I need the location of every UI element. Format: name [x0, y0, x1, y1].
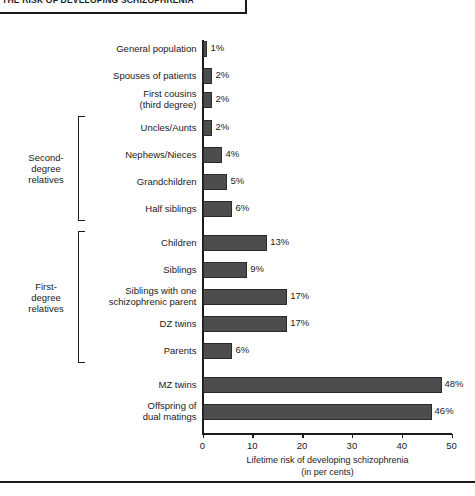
category-label: Grandchildren: [137, 176, 197, 187]
bar: [203, 68, 213, 84]
bar: [203, 92, 213, 108]
category-label-line: Spouses of patients: [113, 70, 196, 81]
category-label: DZ twins: [160, 318, 197, 329]
category-label: Spouses of patients: [113, 70, 196, 81]
category-label-line: Grandchildren: [137, 176, 197, 187]
category-label: Parents: [164, 345, 197, 356]
bar: [203, 174, 228, 190]
x-axis-title: Lifetime risk of developing schizophreni…: [180, 455, 475, 478]
bar-value-label: 6%: [235, 200, 249, 216]
group-bracket: [78, 116, 85, 221]
category-label-line: Offspring of: [143, 400, 197, 411]
x-tick-label: 40: [387, 440, 417, 451]
title-box: THE RISK OF DEVELOPING SCHIZOPHRENIA: [0, 0, 247, 14]
category-label-line: General population: [116, 43, 196, 54]
chart-page: THE RISK OF DEVELOPING SCHIZOPHRENIA 1%2…: [0, 0, 475, 496]
bar: [203, 41, 208, 57]
category-label-line: schizophrenic parent: [109, 296, 197, 307]
bar-value-label: 9%: [250, 261, 264, 277]
bar-value-label: 1%: [210, 40, 224, 56]
bar-value-label: 6%: [235, 342, 249, 358]
bar-value-label: 4%: [225, 146, 239, 162]
category-label-line: dual matings: [143, 411, 197, 422]
category-label: Siblings: [163, 264, 196, 275]
category-label: Offspring ofdual matings: [143, 400, 197, 422]
bar: [203, 404, 432, 420]
bar: [203, 377, 442, 393]
x-tick-label: 20: [287, 440, 317, 451]
category-label-line: First cousins: [139, 88, 196, 99]
bar: [203, 235, 268, 251]
group-label-line: First-: [18, 281, 74, 292]
category-label-line: Uncles/Aunts: [141, 122, 197, 133]
x-axis-line: [202, 433, 452, 435]
x-tick-label: 10: [237, 440, 267, 451]
bar-value-label: 2%: [215, 119, 229, 135]
bar: [203, 289, 288, 305]
category-label-line: MZ twins: [159, 379, 197, 390]
category-label-line: DZ twins: [160, 318, 197, 329]
group-label-line: relatives: [18, 303, 74, 314]
bar-value-label: 5%: [230, 173, 244, 189]
x-tick-label: 30: [337, 440, 367, 451]
group-label: First-degreerelatives: [18, 281, 74, 314]
x-tick: [252, 434, 254, 438]
category-label: Half siblings: [145, 203, 196, 214]
group-label: Second-degreerelatives: [18, 152, 74, 185]
category-label-line: Siblings with one: [109, 285, 197, 296]
bar-value-label: 2%: [215, 91, 229, 107]
category-label: Siblings with oneschizophrenic parent: [109, 285, 197, 307]
group-label-line: degree: [18, 163, 74, 174]
bar-value-label: 46%: [435, 403, 454, 419]
group-label-line: degree: [18, 292, 74, 303]
category-label: Children: [161, 237, 196, 248]
category-label-line: Nephews/Nieces: [125, 149, 196, 160]
category-label: General population: [116, 43, 196, 54]
group-bracket: [78, 231, 85, 363]
x-axis-title-line1: Lifetime risk of developing schizophreni…: [180, 455, 475, 467]
group-label-line: Second-: [18, 152, 74, 163]
x-tick: [452, 434, 454, 438]
page-title: THE RISK OF DEVELOPING SCHIZOPHRENIA: [2, 0, 194, 5]
category-label-line: (third degree): [139, 99, 196, 110]
bar-value-label: 48%: [445, 376, 464, 392]
category-label: MZ twins: [159, 379, 197, 390]
x-tick: [352, 434, 354, 438]
bar: [203, 201, 233, 217]
category-label-line: Half siblings: [145, 203, 196, 214]
category-label-line: Siblings: [163, 264, 196, 275]
bar: [203, 343, 233, 359]
x-tick: [302, 434, 304, 438]
category-label: Nephews/Nieces: [125, 149, 196, 160]
bar-value-label: 17%: [290, 288, 309, 304]
bar: [203, 147, 223, 163]
bar: [203, 316, 288, 332]
bar-value-label: 2%: [215, 67, 229, 83]
x-tick-label: 0: [188, 440, 218, 451]
category-label: Uncles/Aunts: [141, 122, 197, 133]
x-tick-label: 50: [437, 440, 467, 451]
category-label-line: Parents: [164, 345, 197, 356]
x-tick: [402, 434, 404, 438]
category-label: First cousins(third degree): [139, 88, 196, 110]
bottom-rule: [0, 481, 475, 483]
bar: [203, 262, 248, 278]
x-axis-title-line2: (in per cents): [180, 467, 475, 479]
x-tick: [203, 434, 205, 438]
bar-value-label: 13%: [270, 234, 289, 250]
bar: [203, 120, 213, 136]
bar-value-label: 17%: [290, 315, 309, 331]
category-label-line: Children: [161, 237, 196, 248]
group-label-line: relatives: [18, 174, 74, 185]
